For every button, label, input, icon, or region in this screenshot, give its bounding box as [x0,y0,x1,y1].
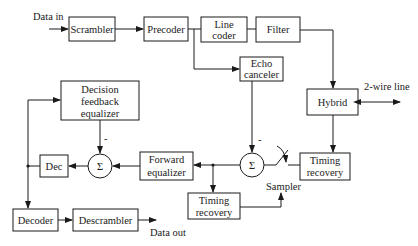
decoder-label: Decoder [18,215,54,226]
summer-dfe-symbol: Σ [97,161,103,172]
filter-block: Filter [256,17,300,42]
scrambler-label: Scrambler [70,24,114,35]
timing-recovery-lower-label-1: Timing [199,195,230,206]
timing-recovery-lower-block: Timing recovery [188,193,240,219]
forward-equalizer-block: Forward equalizer [140,152,193,180]
echo-canceler-label-1: Echo [251,58,273,69]
echo-minus-sign: - [258,134,262,145]
hybrid-block: Hybrid [307,89,358,115]
echo-canceler-label-2: canceler [244,69,279,80]
precoder-block: Precoder [144,17,188,41]
summer-echo-symbol: Σ [249,160,255,171]
timing-recovery-upper-label-2: recovery [307,167,344,178]
data-in-label: Data in [33,11,64,22]
descrambler-label: Descrambler [79,215,133,226]
data-out-label: Data out [150,227,186,238]
dfe-minus-sign: - [104,133,108,144]
summer-echo: Σ [240,153,264,177]
two-wire-line-label: 2-wire line [364,81,410,92]
sampler-switch [264,146,288,165]
dfe-label-2: feedback [81,96,120,107]
forward-equalizer-label-1: Forward [149,154,185,165]
block-diagram: Data in Scrambler Precoder Line coder Fi… [0,0,418,246]
dfe-label-3: equalizer [81,108,120,119]
line-coder-block: Line coder [201,17,247,42]
precoder-label: Precoder [147,24,185,35]
sampler-label: Sampler [266,181,301,192]
hybrid-label: Hybrid [318,97,348,108]
scrambler-block: Scrambler [69,17,115,41]
timing-recovery-lower-label-2: recovery [196,207,233,218]
filter-label: Filter [267,24,290,35]
echo-canceler-block: Echo canceler [240,57,283,81]
filter-to-hybrid-arrow [300,30,333,88]
dec-block: Dec [40,155,68,177]
line-coder-label-1: Line [214,19,234,30]
dfe-label-1: Decision [81,84,119,95]
decision-feedback-equalizer-block: Decision feedback equalizer [61,81,139,120]
lower-timing-to-sampler-arrow [240,193,281,207]
descrambler-block: Descrambler [73,209,138,231]
forward-equalizer-label-2: equalizer [147,167,186,178]
dec-label: Dec [46,161,63,172]
line-coder-label-2: coder [212,30,236,41]
decoder-block: Decoder [13,209,58,231]
timing-recovery-upper-label-1: Timing [310,155,341,166]
summer-dfe: Σ [88,154,112,178]
timing-recovery-upper-block: Timing recovery [300,153,350,180]
